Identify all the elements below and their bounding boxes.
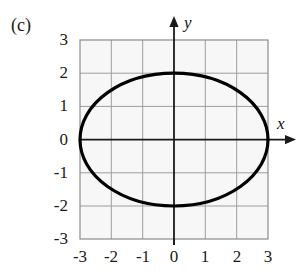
- y-tick-label: -1: [40, 164, 68, 181]
- y-tick-label: -2: [40, 197, 68, 214]
- y-axis-label: y: [184, 14, 192, 31]
- y-tick-label: 1: [46, 97, 68, 114]
- y-tick-label: 2: [46, 64, 68, 81]
- y-tick-label: -3: [40, 230, 68, 247]
- y-tick-label: 0: [46, 131, 68, 148]
- x-axis-label: x: [277, 115, 285, 132]
- x-tick-label: -1: [131, 248, 155, 265]
- x-tick-label: 0: [164, 248, 184, 265]
- x-tick-label: -2: [99, 248, 123, 265]
- x-tick-label: 3: [258, 248, 278, 265]
- x-tick-label: -3: [68, 248, 92, 265]
- y-tick-label: 3: [46, 31, 68, 48]
- x-tick-label: 2: [227, 248, 247, 265]
- x-tick-label: 1: [195, 248, 215, 265]
- figure-panel-c: (c): [0, 0, 299, 276]
